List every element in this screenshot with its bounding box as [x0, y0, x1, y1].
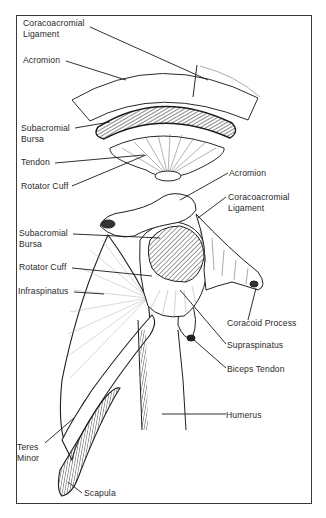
label-exploded-subacromial-bursa: Subacromial Bursa [21, 123, 70, 145]
exploded-tendon [110, 134, 224, 181]
label-teres-minor: Teres Minor [17, 442, 39, 464]
label-assembled-rotator-cuff: Rotator Cuff [19, 262, 66, 273]
assembled-rotator-cuff [140, 222, 208, 317]
label-scapula: Scapula [84, 488, 116, 499]
label-assembled-acromion: Acromion [229, 168, 266, 179]
label-humerus: Humerus [226, 410, 262, 421]
label-line-1: Coracoacromial [23, 18, 85, 29]
label-line-2: Minor [17, 453, 39, 464]
label-biceps-tendon: Biceps Tendon [227, 364, 285, 375]
label-line-1: Coracoacromial [228, 192, 290, 203]
label-line-2: Bursa [21, 134, 70, 145]
label-line-1: Teres [17, 442, 39, 453]
label-line-1: Subacromial [21, 123, 70, 134]
label-exploded-tendon: Tendon [21, 157, 50, 168]
label-exploded-rotator-cuff: Rotator Cuff [21, 181, 68, 192]
label-line-2: Bursa [19, 239, 68, 250]
label-exploded-acromion: Acromion [23, 55, 60, 66]
label-assembled-coracoacromial-ligament: Coracoacromial Ligament [228, 192, 290, 214]
label-supraspinatus: Supraspinatus [227, 340, 283, 351]
label-coracoid-process: Coracoid Process [227, 318, 296, 329]
label-exploded-coracoacromial-ligament: Coracoacromial Ligament [23, 18, 85, 40]
label-infraspinatus: Infraspinatus [18, 286, 69, 297]
label-line-2: Ligament [228, 203, 290, 214]
shoulder-illustration [0, 0, 326, 518]
label-assembled-subacromial-bursa: Subacromial Bursa [19, 228, 68, 250]
label-line-1: Subacromial [19, 228, 68, 239]
label-line-2: Ligament [23, 29, 85, 40]
exploded-bursa [96, 106, 236, 139]
